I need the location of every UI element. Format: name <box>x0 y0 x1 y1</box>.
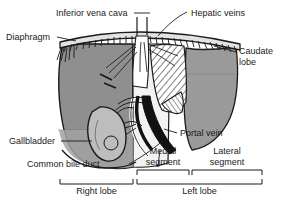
label-inferior-vena-cava: Inferior vena cava <box>56 8 128 18</box>
bracket-medial-segment <box>137 170 189 175</box>
brackets-group <box>60 170 262 184</box>
label-diaphragm: Diaphragm <box>6 32 50 42</box>
label-common-bile-duct: Common bile duct <box>27 159 100 169</box>
label-medial-segment-line2: segment <box>137 157 189 167</box>
label-lateral-segment-line2: segment <box>192 157 262 167</box>
label-medial-segment-line1: Medial <box>137 146 189 156</box>
bracket-lateral-segment <box>192 170 262 175</box>
label-hepatic-veins: Hepatic veins <box>191 8 245 18</box>
label-left-lobe: Left lobe <box>137 186 262 196</box>
bracket-left-lobe <box>137 179 262 184</box>
label-caudate-lobe-line2: lobe <box>239 57 256 67</box>
label-portal-vein: Portal vein <box>180 128 223 138</box>
label-right-lobe: Right lobe <box>60 186 133 196</box>
label-caudate-lobe-line1: Caudate <box>239 46 273 56</box>
bracket-right-lobe <box>60 179 133 184</box>
label-gallbladder: Gallbladder <box>9 136 55 146</box>
figure-canvas: Inferior vena cava Hepatic veins Diaphra… <box>0 0 282 207</box>
label-lateral-segment-line1: Lateral <box>192 146 262 156</box>
